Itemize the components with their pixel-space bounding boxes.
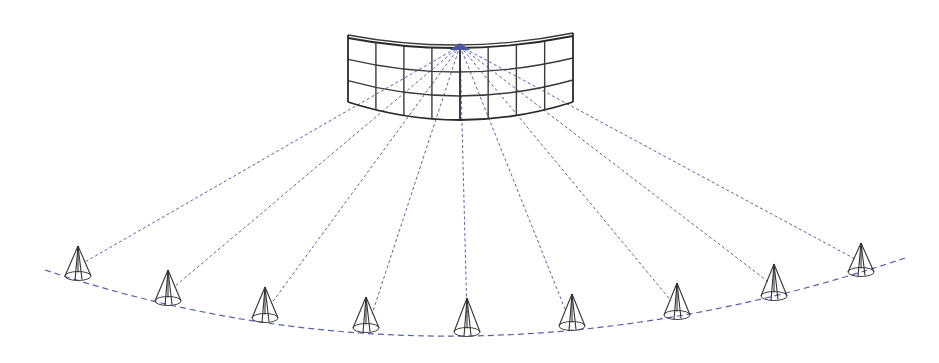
projection-ray	[174, 46, 460, 287]
cone-base	[252, 314, 278, 323]
cone-icon	[155, 270, 181, 306]
cone-icon	[848, 243, 874, 277]
projection-ray	[372, 46, 460, 314]
projection-ray	[460, 46, 768, 282]
projection-ray	[460, 46, 671, 301]
cone-base	[761, 292, 787, 301]
cone-base	[454, 328, 480, 337]
projection-diagram	[0, 0, 939, 363]
cone-icon	[664, 283, 690, 320]
cone-icon	[65, 246, 91, 281]
receiver-cones	[65, 243, 874, 337]
cone-base	[65, 272, 91, 281]
cone-icon	[761, 264, 787, 301]
cone-icon	[353, 297, 379, 333]
cone-base	[155, 297, 181, 306]
projection-ray	[460, 46, 855, 259]
cone-base	[353, 324, 379, 333]
cone-base	[664, 311, 690, 320]
emitter-dot	[458, 43, 462, 47]
cone-icon	[454, 298, 480, 337]
projection-ray	[460, 46, 467, 317]
cone-base	[848, 268, 874, 277]
cone-icon	[559, 294, 585, 331]
cone-base	[559, 322, 585, 331]
cone-icon	[252, 287, 278, 323]
projection-rays	[84, 46, 855, 317]
